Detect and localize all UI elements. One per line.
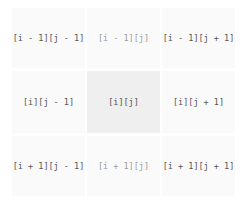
neighbor-grid: [i - 1][j - 1] [i - 1][j] [i - 1][j + 1]…: [12, 8, 234, 196]
cell-top-center: [i - 1][j]: [87, 8, 160, 68]
cell-center: [i][j]: [87, 71, 160, 133]
cell-bottom-right: [i + 1][j + 1]: [162, 136, 235, 196]
cell-bottom-center: [i + 1][j]: [87, 136, 160, 196]
cell-top-right: [i - 1][j + 1]: [162, 8, 235, 68]
cell-bottom-left: [i + 1][j - 1]: [12, 136, 85, 196]
cell-top-left: [i - 1][j - 1]: [12, 8, 85, 68]
cell-middle-left: [i][j - 1]: [12, 71, 85, 133]
cell-middle-right: [i][j + 1]: [162, 71, 235, 133]
